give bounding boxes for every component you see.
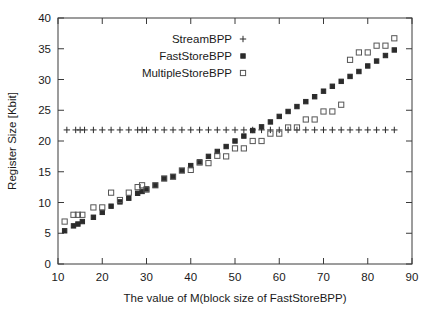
series-streambpp xyxy=(64,127,398,133)
data-point xyxy=(179,127,185,133)
data-point xyxy=(366,64,370,68)
x-tick-label: 70 xyxy=(317,271,330,283)
data-point xyxy=(109,204,113,208)
data-point xyxy=(330,84,334,88)
chart-legend: StreamBPPFastStoreBPPMultipleStoreBPP xyxy=(142,33,246,79)
data-point xyxy=(162,176,166,180)
legend-label-faststorebpp: FastStoreBPP xyxy=(159,50,232,62)
data-point xyxy=(312,117,317,122)
scatter-plot-svg: 0510152025303540 102030405060708090 Regi… xyxy=(0,0,427,311)
data-point xyxy=(241,146,246,151)
data-point xyxy=(64,127,70,133)
data-point xyxy=(188,127,194,133)
data-point xyxy=(224,154,229,159)
data-point xyxy=(338,127,344,133)
data-point xyxy=(321,109,326,114)
data-point xyxy=(392,36,397,41)
data-point xyxy=(374,43,379,48)
data-point xyxy=(91,215,95,219)
data-point xyxy=(241,127,247,133)
y-tick-label: 15 xyxy=(38,166,51,178)
data-point xyxy=(71,224,75,228)
y-tick-label: 10 xyxy=(38,197,51,209)
data-point xyxy=(180,168,184,172)
data-point xyxy=(196,127,202,133)
legend-marker-plus-icon xyxy=(240,36,246,42)
data-point xyxy=(392,48,396,52)
y-tick-label: 35 xyxy=(38,43,51,55)
data-point xyxy=(91,205,96,210)
data-point xyxy=(126,127,132,133)
chart-figure: 0510152025303540 102030405060708090 Regi… xyxy=(0,0,427,311)
data-point xyxy=(135,191,139,195)
data-point xyxy=(81,127,87,133)
data-point xyxy=(330,109,335,114)
data-point xyxy=(312,95,316,99)
data-point xyxy=(348,74,352,78)
x-tick-label: 30 xyxy=(140,271,153,283)
data-point xyxy=(373,127,379,133)
data-point xyxy=(206,154,210,158)
data-point xyxy=(242,134,246,138)
data-point xyxy=(153,183,157,187)
data-point xyxy=(286,109,290,113)
x-tick-label: 40 xyxy=(184,271,197,283)
data-point xyxy=(365,127,371,133)
x-tick-label: 60 xyxy=(273,271,286,283)
data-point xyxy=(382,127,388,133)
y-tick-label: 20 xyxy=(38,135,51,147)
x-tick-label: 10 xyxy=(52,271,65,283)
data-point xyxy=(143,127,149,133)
data-point xyxy=(233,139,237,143)
data-point xyxy=(171,174,175,178)
data-point xyxy=(277,114,281,118)
data-point xyxy=(347,57,352,62)
data-point xyxy=(126,190,131,195)
data-point xyxy=(303,127,309,133)
data-point xyxy=(161,127,167,133)
data-point xyxy=(251,128,255,132)
data-point xyxy=(250,138,255,143)
data-point xyxy=(295,104,299,108)
x-tick-label: 20 xyxy=(96,271,109,283)
data-point xyxy=(108,127,114,133)
data-point xyxy=(90,127,96,133)
data-point xyxy=(214,127,220,133)
data-point xyxy=(391,127,397,133)
y-tick-label: 40 xyxy=(38,12,51,24)
data-point xyxy=(383,53,387,57)
data-point xyxy=(100,205,105,210)
data-point xyxy=(374,59,378,63)
data-point xyxy=(205,127,211,133)
data-point xyxy=(118,200,122,204)
data-point xyxy=(259,138,264,143)
y-tick-label: 0 xyxy=(45,258,51,270)
x-axis-title: The value of M(block size of FastStoreBP… xyxy=(123,292,346,304)
y-tick-label: 30 xyxy=(38,74,51,86)
data-point xyxy=(383,43,388,48)
y-axis-tick-labels: 0510152025303540 xyxy=(38,12,51,270)
data-point xyxy=(339,79,343,83)
data-point xyxy=(62,219,67,224)
data-point xyxy=(356,127,362,133)
x-tick-label: 90 xyxy=(406,271,419,283)
data-point xyxy=(109,190,114,195)
data-point xyxy=(311,127,317,133)
y-tick-label: 25 xyxy=(38,104,51,116)
data-point xyxy=(356,50,361,55)
data-point xyxy=(232,146,237,151)
data-point xyxy=(170,127,176,133)
data-point xyxy=(339,102,344,107)
legend-marker-square-icon xyxy=(240,70,245,75)
data-point xyxy=(303,117,308,122)
legend-label-multiplestorebpp: MultipleStoreBPP xyxy=(142,67,232,79)
data-point xyxy=(100,210,104,214)
x-tick-label: 50 xyxy=(229,271,242,283)
data-point xyxy=(232,127,238,133)
data-point xyxy=(117,127,123,133)
data-point xyxy=(152,127,158,133)
data-point xyxy=(347,127,353,133)
legend-marker-star-icon xyxy=(241,54,245,58)
data-point xyxy=(329,127,335,133)
y-tick-label: 5 xyxy=(45,227,51,239)
